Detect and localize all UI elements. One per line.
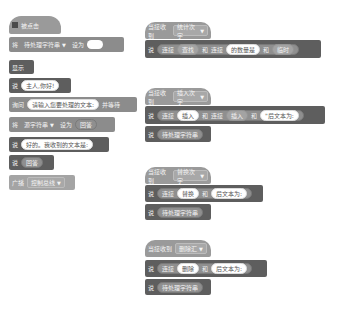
block-keyword: 将	[12, 120, 18, 129]
find-reporter[interactable]: 查找	[177, 44, 199, 55]
variable-name: 源字符串	[24, 120, 48, 129]
block-keyword: 说	[148, 283, 154, 292]
join-label: 连接	[211, 45, 223, 54]
say-block[interactable]: 说 回答	[9, 155, 54, 170]
block-keyword: 说	[12, 81, 18, 90]
say-text-input[interactable]: 好的。我收到的文本是:	[21, 139, 93, 150]
when-receive-hat[interactable]: 当接收到 统计次字▼	[145, 22, 211, 39]
ask-text-input[interactable]: 请输入您要处理的文本:	[27, 99, 99, 110]
text-input[interactable]: "后文本为:	[260, 110, 299, 121]
and-label: 和	[251, 111, 257, 120]
variable-reporter[interactable]: 待处理字符串	[157, 129, 203, 140]
block-keyword: 说	[148, 189, 154, 198]
variable-reporter[interactable]: 待处理字符串	[157, 207, 203, 218]
message-dropdown[interactable]: 统计次字▼	[173, 25, 208, 36]
block-keyword: 说	[12, 158, 18, 167]
chevron-down-icon: ▼	[200, 28, 204, 34]
ask-and-wait-block[interactable]: 询问 请输入您要处理的文本: 并等待	[9, 97, 137, 112]
when-receive-hat[interactable]: 当接收到 替换次字▼	[145, 167, 211, 184]
and-label: 和	[202, 45, 208, 54]
value-input[interactable]	[87, 40, 103, 49]
text-input[interactable]: 后文本为:	[211, 263, 247, 274]
when-receive-hat[interactable]: 当接收到 删除汇▼	[145, 240, 211, 257]
say-block[interactable]: 说 待处理字符串	[145, 204, 211, 220]
when-receive-hat[interactable]: 当接收到 插入次字▼	[145, 88, 211, 105]
variable-name: 待处理字符串	[24, 40, 60, 49]
temp-reporter[interactable]: 临时	[272, 44, 294, 55]
block-keyword: 将	[12, 40, 18, 49]
hat-label: 当接收到	[148, 167, 170, 185]
join-label: 连接	[162, 189, 174, 198]
block-keyword: 显示	[12, 63, 24, 72]
text-input[interactable]: 后文本为:	[211, 188, 247, 199]
set-variable-block[interactable]: 将 源字符串▼ 设为 回答	[9, 117, 115, 132]
insert-reporter[interactable]: 插入	[226, 110, 248, 121]
hat-label: 被点击	[21, 21, 39, 30]
say-block[interactable]: 说 连接 替换 和 后文本为:	[145, 185, 263, 202]
join-reporter[interactable]: 连接 替换 和 后文本为:	[157, 188, 252, 199]
block-keyword: 说	[148, 45, 154, 54]
message-name: 替换次字	[177, 167, 198, 185]
broadcast-dropdown[interactable]: 控制总线▼	[27, 177, 65, 188]
say-block[interactable]: 说 待处理字符串	[145, 126, 211, 142]
block-keyword: 并等待	[102, 100, 120, 109]
set-variable-block[interactable]: 将 待处理字符串▼ 设为	[9, 37, 124, 52]
join-label: 连接	[162, 264, 174, 273]
message-name: 统计次字	[177, 22, 198, 40]
say-text-input[interactable]: 主人,你好!	[21, 80, 59, 91]
say-block[interactable]: 说 主人,你好!	[9, 78, 71, 93]
text-input[interactable]: 的数量是	[226, 44, 260, 55]
say-block[interactable]: 说 连接 插入 和 连接 插入 和 "后文本为:	[145, 106, 325, 124]
block-keyword: 说	[148, 264, 154, 273]
message-name: 删除汇	[179, 244, 197, 253]
message-name: 插入次字	[177, 88, 198, 106]
when-flag-clicked-hat[interactable]: 被点击	[9, 16, 61, 34]
variable-dropdown[interactable]: 待处理字符串▼	[21, 39, 69, 50]
chevron-down-icon: ▼	[50, 122, 54, 128]
text-input[interactable]: 替换	[177, 188, 199, 199]
block-keyword: 询问	[12, 100, 24, 109]
block-keyword: 设为	[72, 40, 84, 49]
chevron-down-icon: ▼	[200, 94, 204, 100]
variable-reporter[interactable]: 待处理字符串	[157, 282, 203, 293]
block-keyword: 说	[148, 130, 154, 139]
say-block[interactable]: 说 连接 删除 和 后文本为:	[145, 260, 267, 277]
variable-dropdown[interactable]: 源字符串▼	[21, 119, 57, 130]
join-reporter[interactable]: 连接 删除 和 后文本为:	[157, 263, 252, 274]
hat-label: 当接收到	[148, 244, 172, 253]
show-block[interactable]: 显示	[9, 60, 34, 74]
block-keyword: 说	[148, 208, 154, 217]
hat-label: 当接收到	[148, 88, 170, 106]
text-input[interactable]: 删除	[177, 263, 199, 274]
green-flag-icon	[12, 22, 18, 28]
message-dropdown[interactable]: 删除汇▼	[175, 243, 207, 254]
and-label: 和	[263, 45, 269, 54]
block-keyword: 说	[12, 140, 18, 149]
chevron-down-icon: ▼	[57, 180, 61, 186]
message-dropdown[interactable]: 插入次字▼	[173, 91, 208, 102]
text-input[interactable]: 插入	[177, 110, 199, 121]
chevron-down-icon: ▼	[199, 246, 203, 252]
join-label: 连接	[162, 111, 174, 120]
and-label: 和	[202, 264, 208, 273]
join-label: 连接	[211, 111, 223, 120]
say-block[interactable]: 说 好的。我收到的文本是:	[9, 137, 109, 152]
and-label: 和	[202, 189, 208, 198]
broadcast-block[interactable]: 广播 控制总线▼	[9, 175, 75, 190]
join-reporter[interactable]: 连接 查找 和 连接 的数量是 和 临时	[157, 44, 299, 55]
join-label: 连接	[162, 45, 174, 54]
block-keyword: 说	[148, 111, 154, 120]
message-dropdown[interactable]: 替换次字▼	[173, 170, 208, 181]
say-block[interactable]: 说 连接 查找 和 连接 的数量是 和 临时	[145, 40, 321, 58]
hat-label: 当接收到	[148, 22, 170, 40]
broadcast-message: 控制总线	[31, 178, 55, 187]
block-keyword: 广播	[12, 178, 24, 187]
join-reporter[interactable]: 连接 插入 和 连接 插入 和 "后文本为:	[157, 110, 304, 121]
chevron-down-icon: ▼	[62, 42, 66, 48]
and-label: 和	[202, 111, 208, 120]
answer-reporter[interactable]: 回答	[21, 157, 43, 168]
say-block[interactable]: 说 待处理字符串	[145, 279, 211, 295]
chevron-down-icon: ▼	[200, 173, 204, 179]
block-keyword: 设为	[60, 120, 72, 129]
answer-reporter[interactable]: 回答	[75, 119, 97, 130]
